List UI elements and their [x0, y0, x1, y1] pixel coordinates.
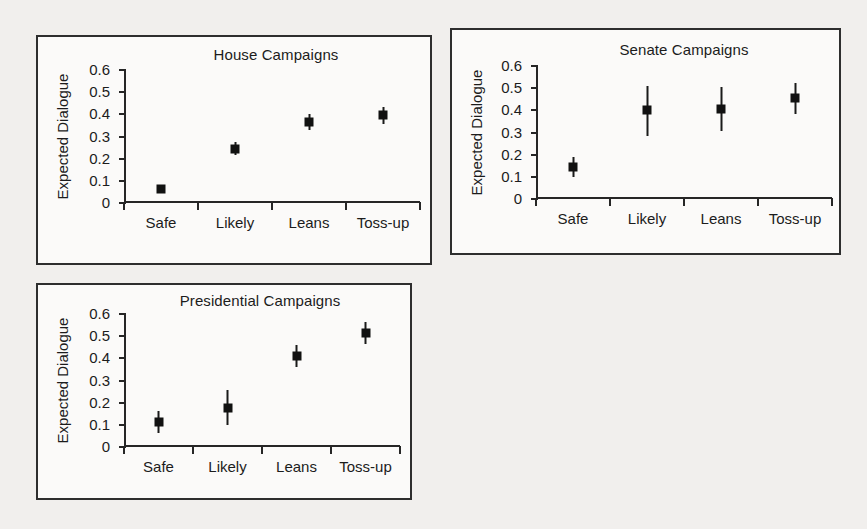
marker-square — [292, 351, 301, 360]
marker-square — [569, 162, 578, 171]
y-tick-label-senate-5: 0.5 — [501, 79, 522, 96]
y-tick-label-presidential-3: 0.3 — [89, 371, 110, 388]
y-tick-senate-6: 0.6 — [531, 65, 538, 67]
x-tick-presidential-1 — [192, 446, 194, 454]
panel-house-campaigns: House Campaigns Expected Dialogue 00.10.… — [36, 35, 432, 265]
y-tick-label-presidential-2: 0.2 — [89, 393, 110, 410]
y-tick-label-house-3: 0.3 — [89, 127, 110, 144]
plot-area-presidential: 00.10.20.30.40.50.6SafeLikelyLeansToss-u… — [124, 314, 400, 447]
y-tick-label-senate-3: 0.3 — [501, 123, 522, 140]
data-point-value: Leans: 0.412 — [296, 314, 297, 315]
y-tick-label-senate-2: 0.2 — [501, 145, 522, 162]
y-tick-label-senate-1: 0.1 — [501, 167, 522, 184]
y-tick-house-5: 0.5 — [119, 91, 126, 93]
data-point-value: Toss-up: 0.455 — [795, 66, 796, 67]
y-axis-label-presidential: Expected Dialogue — [54, 301, 71, 461]
x-tick-senate-1 — [609, 198, 611, 206]
x-tick-label-presidential-toss-up: Toss-up — [339, 458, 392, 475]
marker-square — [361, 328, 370, 337]
data-point-presidential-leans: Leans: 0.412 — [296, 314, 297, 447]
y-tick-senate-3: 0.3 — [531, 132, 538, 134]
x-tick-label-house-leans: Leans — [289, 214, 330, 231]
figure-canvas: House Campaigns Expected Dialogue 00.10.… — [0, 0, 867, 529]
y-tick-presidential-5: 0.5 — [119, 335, 126, 337]
data-point-value: Likely: 0.178 — [227, 314, 228, 315]
chart-title-presidential: Presidential Campaigns — [112, 292, 408, 309]
data-point-senate-likely: Likely: 0.4 — [647, 66, 648, 199]
y-tick-presidential-1: 0.1 — [119, 424, 126, 426]
x-tick-label-presidential-safe: Safe — [143, 458, 174, 475]
data-point-value: Likely: 0.245 — [235, 70, 236, 71]
marker-square — [305, 118, 314, 127]
panel-presidential-campaigns: Presidential Campaigns Expected Dialogue… — [36, 283, 412, 500]
y-tick-label-senate-6: 0.6 — [501, 57, 522, 74]
data-point-senate-safe: Safe: 0.145 — [573, 66, 574, 199]
plot-area-senate: 00.10.20.30.40.50.6SafeLikelyLeansToss-u… — [536, 66, 832, 199]
data-point-value: Toss-up: 0.515 — [365, 314, 366, 315]
data-point-house-safe: Safe: 0.065 — [161, 70, 162, 203]
chart-title-house: House Campaigns — [128, 46, 424, 63]
x-tick-presidential-0 — [123, 446, 125, 454]
data-point-value: Safe: 0.145 — [573, 66, 574, 67]
y-tick-house-3: 0.3 — [119, 136, 126, 138]
y-tick-house-6: 0.6 — [119, 69, 126, 71]
y-tick-label-house-1: 0.1 — [89, 171, 110, 188]
x-tick-label-senate-likely: Likely — [628, 210, 666, 227]
data-point-value: Likely: 0.4 — [647, 66, 648, 67]
y-tick-label-presidential-6: 0.6 — [89, 305, 110, 322]
x-tick-house-3 — [345, 202, 347, 210]
y-tick-presidential-3: 0.3 — [119, 380, 126, 382]
marker-square — [717, 105, 726, 114]
data-point-value: Safe: 0.112 — [158, 314, 159, 315]
y-tick-label-presidential-1: 0.1 — [89, 415, 110, 432]
data-point-house-likely: Likely: 0.245 — [235, 70, 236, 203]
y-tick-label-house-5: 0.5 — [89, 83, 110, 100]
y-tick-senate-4: 0.4 — [531, 109, 538, 111]
x-tick-house-4 — [419, 202, 421, 210]
x-tick-label-house-safe: Safe — [146, 214, 177, 231]
y-tick-label-house-0: 0 — [102, 194, 110, 211]
y-tick-presidential-4: 0.4 — [119, 357, 126, 359]
x-tick-label-senate-toss-up: Toss-up — [769, 210, 822, 227]
y-tick-label-presidential-5: 0.5 — [89, 327, 110, 344]
data-point-senate-toss-up: Toss-up: 0.455 — [795, 66, 796, 199]
data-point-senate-leans: Leans: 0.405 — [721, 66, 722, 199]
x-tick-label-senate-leans: Leans — [701, 210, 742, 227]
data-point-value: Toss-up: 0.395 — [383, 70, 384, 71]
marker-square — [379, 111, 388, 120]
x-tick-presidential-4 — [399, 446, 401, 454]
x-tick-presidential-3 — [330, 446, 332, 454]
y-tick-label-senate-4: 0.4 — [501, 101, 522, 118]
data-point-presidential-toss-up: Toss-up: 0.515 — [365, 314, 366, 447]
y-tick-house-2: 0.2 — [119, 158, 126, 160]
data-point-house-leans: Leans: 0.365 — [309, 70, 310, 203]
x-tick-presidential-2 — [261, 446, 263, 454]
x-tick-senate-2 — [683, 198, 685, 206]
marker-square — [643, 106, 652, 115]
x-tick-senate-0 — [535, 198, 537, 206]
y-tick-presidential-2: 0.2 — [119, 402, 126, 404]
marker-square — [791, 94, 800, 103]
data-point-house-toss-up: Toss-up: 0.395 — [383, 70, 384, 203]
panel-senate-campaigns: Senate Campaigns Expected Dialogue 00.10… — [450, 28, 841, 255]
y-tick-senate-5: 0.5 — [531, 87, 538, 89]
y-tick-label-house-2: 0.2 — [89, 149, 110, 166]
x-tick-senate-3 — [757, 198, 759, 206]
y-tick-house-4: 0.4 — [119, 113, 126, 115]
data-point-value: Safe: 0.065 — [161, 70, 162, 71]
y-tick-senate-1: 0.1 — [531, 176, 538, 178]
y-tick-label-presidential-0: 0 — [102, 438, 110, 455]
x-tick-house-2 — [271, 202, 273, 210]
y-tick-label-presidential-4: 0.4 — [89, 349, 110, 366]
x-tick-label-presidential-likely: Likely — [208, 458, 246, 475]
x-tick-label-house-likely: Likely — [216, 214, 254, 231]
marker-square — [154, 418, 163, 427]
plot-area-house: 00.10.20.30.40.50.6SafeLikelyLeansToss-u… — [124, 70, 420, 203]
y-tick-senate-2: 0.2 — [531, 154, 538, 156]
y-axis-label-house: Expected Dialogue — [54, 57, 71, 217]
x-tick-house-0 — [123, 202, 125, 210]
x-tick-senate-4 — [831, 198, 833, 206]
y-tick-label-house-4: 0.4 — [89, 105, 110, 122]
x-tick-label-house-toss-up: Toss-up — [357, 214, 410, 231]
marker-square — [157, 184, 166, 193]
